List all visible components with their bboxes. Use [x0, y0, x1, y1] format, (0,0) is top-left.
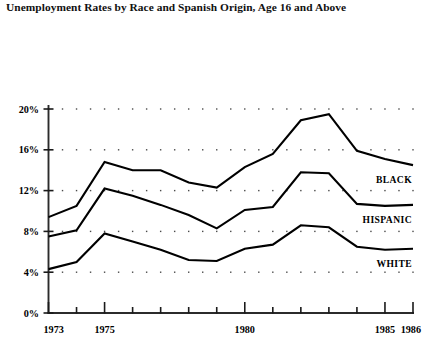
grid-dot	[384, 190, 385, 191]
grid-dot	[104, 231, 105, 232]
grid-dot	[258, 272, 259, 273]
grid-dot	[230, 190, 231, 191]
grid-dot	[398, 149, 399, 150]
grid-dot	[384, 108, 385, 109]
grid-dot	[104, 149, 105, 150]
grid-dot	[216, 108, 217, 109]
grid-dot	[202, 231, 203, 232]
grid-dot	[160, 108, 161, 109]
grid-dot	[146, 108, 147, 109]
grid-dot	[188, 149, 189, 150]
x-axis-tick-label: 1985	[375, 324, 395, 335]
grid-dot	[328, 272, 329, 273]
y-axis-tick-label: 4%	[24, 267, 39, 278]
grid-dot	[272, 149, 273, 150]
grid-dot	[62, 272, 63, 273]
grid-dot	[258, 108, 259, 109]
x-axis-tick-label: 1973	[44, 324, 64, 335]
grid-dot	[286, 231, 287, 232]
grid-dot	[132, 190, 133, 191]
grid-dot	[370, 149, 371, 150]
grid-dot	[146, 231, 147, 232]
grid-dot	[230, 149, 231, 150]
grid-dot	[258, 231, 259, 232]
grid-dot	[118, 231, 119, 232]
grid-dot	[328, 108, 329, 109]
grid-dot	[300, 149, 301, 150]
grid-dot	[314, 149, 315, 150]
grid-dot	[314, 190, 315, 191]
unemployment-rates-chart: Unemployment Rates by Race and Spanish O…	[0, 0, 423, 350]
x-axis-tick-label: 1986	[401, 324, 421, 335]
grid-dot	[412, 272, 413, 273]
grid-dot	[342, 231, 343, 232]
grid-dot	[370, 272, 371, 273]
grid-dot	[272, 272, 273, 273]
grid-dot	[216, 149, 217, 150]
grid-dot	[384, 231, 385, 232]
grid-dot	[258, 190, 259, 191]
grid-dot	[132, 149, 133, 150]
grid-dot	[314, 108, 315, 109]
grid-dot	[412, 231, 413, 232]
grid-dot	[160, 231, 161, 232]
grid-dot	[272, 190, 273, 191]
grid-dot	[146, 190, 147, 191]
grid-dot	[314, 272, 315, 273]
grid-dot	[244, 231, 245, 232]
grid-dot	[216, 272, 217, 273]
grid-dot	[202, 190, 203, 191]
grid-dot	[272, 231, 273, 232]
grid-dot	[342, 149, 343, 150]
x-axis-tick-labels: 19731975198019851986	[44, 324, 422, 335]
series-label-black: BLACK	[376, 174, 412, 185]
grid-dot	[356, 108, 357, 109]
grid-dot	[342, 108, 343, 109]
data-line-black	[49, 114, 414, 217]
grid-dot	[160, 190, 161, 191]
x-axis-ticks	[49, 302, 414, 314]
grid-dot	[398, 190, 399, 191]
series-labels: BLACKHISPANICWHITE	[363, 174, 413, 269]
grid-dot	[412, 108, 413, 109]
grid-dot	[76, 190, 77, 191]
grid-dot	[398, 272, 399, 273]
grid-dot	[244, 149, 245, 150]
grid-dot	[398, 108, 399, 109]
y-axis-tick-label: 20%	[19, 104, 39, 115]
grid-dot	[188, 231, 189, 232]
grid-dot	[90, 108, 91, 109]
grid-dot	[272, 108, 273, 109]
grid-dot	[174, 272, 175, 273]
grid-dot	[244, 108, 245, 109]
grid-dot	[384, 272, 385, 273]
grid-dot	[202, 108, 203, 109]
grid-dot	[370, 108, 371, 109]
grid-dot	[118, 272, 119, 273]
y-axis-tick-label: 0%	[24, 308, 39, 319]
grid-dot	[300, 190, 301, 191]
grid-dot	[384, 149, 385, 150]
y-axis-tick-labels: 0%4%8%12%16%20%	[19, 104, 39, 319]
grid-dot	[76, 149, 77, 150]
grid-dot	[62, 149, 63, 150]
x-axis-tick-label: 1980	[235, 324, 255, 335]
grid-dot	[174, 108, 175, 109]
chart-plot-area: 0%4%8%12%16%20% 19731975198019851986 BLA…	[0, 0, 423, 350]
grid-dot	[258, 149, 259, 150]
grid-dot	[132, 108, 133, 109]
grid-dot	[174, 231, 175, 232]
grid-dot	[76, 272, 77, 273]
data-line-hispanic	[49, 172, 414, 236]
series-label-hispanic: HISPANIC	[363, 214, 412, 225]
x-axis-tick-label: 1975	[94, 324, 114, 335]
grid-dot	[90, 231, 91, 232]
y-axis-tick-label: 12%	[19, 185, 39, 196]
grid-dot	[244, 190, 245, 191]
grid-dot	[286, 149, 287, 150]
grid-dot	[202, 272, 203, 273]
grid-dot	[412, 149, 413, 150]
grid-dot	[118, 108, 119, 109]
grid-dot	[398, 231, 399, 232]
grid-dot	[356, 231, 357, 232]
